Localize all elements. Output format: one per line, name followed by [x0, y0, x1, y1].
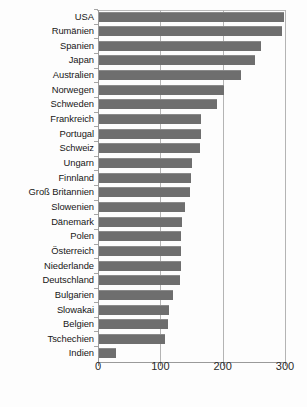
y-tick — [94, 9, 98, 10]
category-label: Österreich — [0, 246, 94, 256]
y-tick — [94, 68, 98, 69]
bar — [99, 70, 241, 80]
category-label: Ungarn — [0, 158, 94, 168]
y-tick — [94, 258, 98, 259]
x-axis-line — [97, 362, 285, 363]
category-label: Slowakai — [0, 305, 94, 315]
y-tick — [94, 288, 98, 289]
category-label: Australien — [0, 70, 94, 80]
y-tick — [94, 156, 98, 157]
category-label: Portugal — [0, 129, 94, 139]
bar — [99, 187, 190, 197]
bar-chart: USARumänienSpanienJapanAustralienNorwege… — [0, 0, 307, 407]
y-tick — [94, 317, 98, 318]
category-label: Spanien — [0, 41, 94, 51]
y-tick — [94, 97, 98, 98]
y-tick — [94, 331, 98, 332]
plot-area — [98, 10, 285, 362]
category-label: Niederlande — [0, 261, 94, 271]
y-tick — [94, 273, 98, 274]
category-label: Belgien — [0, 319, 94, 329]
category-label: Tschechien — [0, 334, 94, 344]
bar — [99, 158, 192, 168]
category-label: Indien — [0, 348, 94, 358]
y-tick — [94, 24, 98, 25]
y-tick — [94, 141, 98, 142]
bar — [99, 231, 181, 241]
category-label: Japan — [0, 55, 94, 65]
bar — [99, 348, 116, 358]
y-tick — [94, 244, 98, 245]
category-label: Rumänien — [0, 26, 94, 36]
gridline-300 — [285, 10, 286, 362]
y-tick — [94, 185, 98, 186]
bar — [99, 26, 282, 36]
bar — [99, 290, 173, 300]
bar — [99, 275, 180, 285]
category-label: Deutschland — [0, 275, 94, 285]
y-tick — [94, 112, 98, 113]
bar — [99, 202, 185, 212]
bar — [99, 55, 255, 65]
bar — [99, 143, 200, 153]
bar — [99, 173, 191, 183]
bar — [99, 99, 217, 109]
y-tick — [94, 229, 98, 230]
category-label: Norwegen — [0, 85, 94, 95]
x-tick-label: 200 — [203, 360, 243, 373]
y-tick — [94, 38, 98, 39]
y-tick — [94, 346, 98, 347]
category-label: Slowenien — [0, 202, 94, 212]
bar — [99, 217, 182, 227]
category-label: Polen — [0, 231, 94, 241]
y-tick — [94, 214, 98, 215]
category-label: Finnland — [0, 173, 94, 183]
y-tick — [94, 53, 98, 54]
category-label: Groß Britannien — [0, 187, 94, 197]
category-label: USA — [0, 12, 94, 22]
bar — [99, 305, 169, 315]
bar — [99, 319, 168, 329]
bar — [99, 261, 181, 271]
y-tick — [94, 302, 98, 303]
category-label: Bulgarien — [0, 290, 94, 300]
y-tick — [94, 200, 98, 201]
x-tick-label: 300 — [265, 360, 305, 373]
bar — [99, 114, 201, 124]
y-tick — [94, 126, 98, 127]
category-label: Schweden — [0, 99, 94, 109]
category-label: Frankreich — [0, 114, 94, 124]
bar — [99, 41, 261, 51]
y-tick — [94, 170, 98, 171]
y-tick — [94, 82, 98, 83]
category-label: Schweiz — [0, 143, 94, 153]
bar — [99, 334, 165, 344]
bar — [99, 85, 224, 95]
bar — [99, 129, 201, 139]
bar — [99, 12, 284, 22]
category-label: Dänemark — [0, 217, 94, 227]
x-tick-label: 0 — [78, 360, 118, 373]
bar — [99, 246, 181, 256]
x-tick-label: 100 — [140, 360, 180, 373]
